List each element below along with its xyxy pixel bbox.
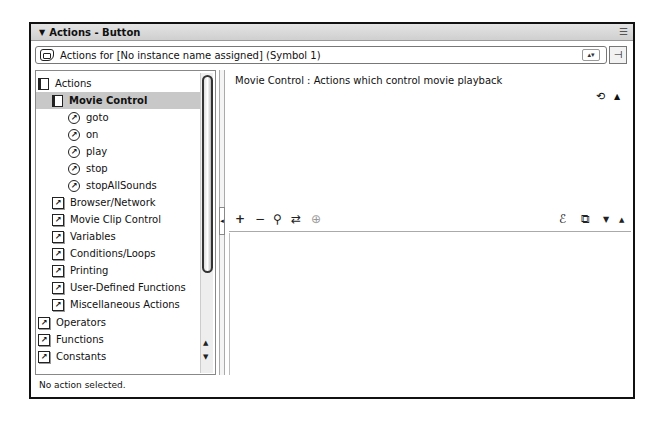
panel-titlebar[interactable]: ▼ Actions - Button ☰: [31, 24, 633, 41]
action-circle-icon: ↗: [68, 129, 80, 141]
view-options-icon[interactable]: ⧉: [581, 212, 590, 226]
script-icon: [40, 49, 54, 61]
toolbox-item-variables[interactable]: ↗Variables: [52, 228, 116, 245]
pin-script-button[interactable]: ⊣: [609, 46, 627, 64]
scroll-down-arrow-icon[interactable]: ▼: [203, 353, 208, 361]
item-label: Conditions/Loops: [70, 248, 156, 259]
collapse-toolbox-handle[interactable]: ◂: [219, 207, 225, 235]
toolbox-item-movie-control[interactable]: Movie Control: [36, 92, 201, 109]
collapse-description-icon[interactable]: ▲: [614, 92, 620, 101]
move-down-icon[interactable]: ▼: [603, 215, 609, 224]
dropdown-icon[interactable]: ▴▾: [582, 49, 600, 61]
actions-for-label: Actions for [No instance name assigned] …: [60, 50, 321, 61]
category-box-icon: ↗: [38, 317, 50, 329]
category-box-icon: ↗: [52, 299, 64, 311]
toolbox-item-constants[interactable]: ↗Constants: [38, 348, 106, 365]
actions-for-selector[interactable]: Actions for [No instance name assigned] …: [35, 46, 607, 64]
category-box-icon: ↗: [52, 214, 64, 226]
script-toolbar: + − ⚲ ⇄ ⊕ ℰ ⧉ ▼ ▲: [229, 210, 631, 232]
category-box-icon: ↗: [52, 248, 64, 260]
actions-panel: ▼ Actions - Button ☰ Actions for [No ins…: [29, 22, 635, 399]
debug-options-icon[interactable]: ℰ: [559, 212, 566, 226]
target-path-icon[interactable]: ⊕: [311, 212, 321, 226]
action-circle-icon: ↗: [68, 163, 80, 175]
item-label: play: [86, 146, 107, 157]
item-label: Constants: [56, 351, 106, 362]
scroll-thumb[interactable]: [202, 75, 213, 273]
collapse-arrow-icon[interactable]: ▼: [39, 28, 45, 37]
replace-icon[interactable]: ⇄: [291, 212, 301, 226]
item-label: Actions: [55, 78, 92, 89]
toolbox-item-browser-network[interactable]: ↗Browser/Network: [52, 194, 156, 211]
item-label: Browser/Network: [70, 197, 156, 208]
script-pane[interactable]: [229, 233, 631, 375]
panel-title: Actions - Button: [49, 27, 140, 38]
add-action-button[interactable]: +: [235, 212, 245, 226]
toolbox-item-miscellaneous-actions[interactable]: ↗Miscellaneous Actions: [52, 296, 180, 313]
toolbox-item-printing[interactable]: ↗Printing: [52, 262, 108, 279]
toolbox-item-functions[interactable]: ↗Functions: [38, 331, 104, 348]
category-box-icon: ↗: [52, 231, 64, 243]
scroll-up-arrow-icon[interactable]: ▲: [203, 339, 208, 347]
toolbox-item-actions[interactable]: Actions: [38, 75, 92, 92]
toolbox-item-goto[interactable]: ↗goto: [68, 109, 109, 126]
options-menu-icon[interactable]: ☰: [619, 26, 627, 37]
category-box-icon: ↗: [38, 351, 50, 363]
reference-icon[interactable]: ⟲: [596, 90, 605, 103]
toolbox-item-conditions-loops[interactable]: ↗Conditions/Loops: [52, 245, 156, 262]
item-label: stop: [86, 163, 108, 174]
category-box-icon: ↗: [52, 282, 64, 294]
status-bar: No action selected.: [39, 380, 126, 390]
item-label: Functions: [56, 334, 104, 345]
category-box-icon: ↗: [38, 334, 50, 346]
category-box-icon: ↗: [52, 197, 64, 209]
toolbox-item-user-defined-functions[interactable]: ↗User-Defined Functions: [52, 279, 186, 296]
toolbox-item-operators[interactable]: ↗Operators: [38, 314, 106, 331]
action-circle-icon: ↗: [68, 146, 80, 158]
item-label: stopAllSounds: [86, 180, 157, 191]
item-label: goto: [86, 112, 109, 123]
toolbox-item-play[interactable]: ↗play: [68, 143, 107, 160]
toolbox-item-stopallsounds[interactable]: ↗stopAllSounds: [68, 177, 157, 194]
item-label: Miscellaneous Actions: [70, 299, 180, 310]
category-box-icon: ↗: [52, 265, 64, 277]
find-icon[interactable]: ⚲: [273, 212, 282, 226]
item-label: Movie Control: [69, 95, 147, 106]
toolbox-item-on[interactable]: ↗on: [68, 126, 98, 143]
book-icon: [52, 95, 63, 107]
item-label: User-Defined Functions: [70, 282, 186, 293]
action-description: Movie Control : Actions which control mo…: [235, 75, 502, 86]
toolbox-item-stop[interactable]: ↗stop: [68, 160, 108, 177]
item-label: Variables: [70, 231, 116, 242]
move-up-icon[interactable]: ▲: [619, 216, 624, 224]
item-label: Operators: [56, 317, 106, 328]
item-label: Movie Clip Control: [70, 214, 161, 225]
actions-toolbox: Actions Movie Control ↗goto ↗on ↗play ↗s…: [35, 70, 216, 375]
toolbox-scrollbar[interactable]: ▲ ▼: [200, 73, 213, 373]
item-label: on: [86, 129, 98, 140]
action-circle-icon: ↗: [68, 180, 80, 192]
remove-action-button[interactable]: −: [255, 212, 265, 226]
action-circle-icon: ↗: [68, 112, 80, 124]
book-icon: [38, 78, 49, 90]
item-label: Printing: [70, 265, 108, 276]
toolbox-item-movie-clip-control[interactable]: ↗Movie Clip Control: [52, 211, 161, 228]
